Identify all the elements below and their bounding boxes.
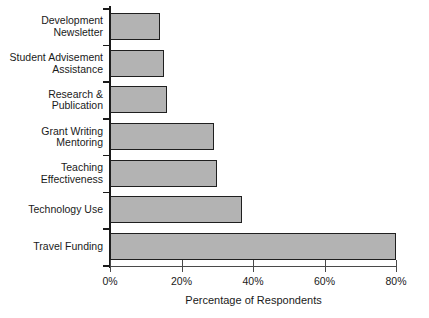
x-axis-tick-label: 80%: [385, 275, 406, 287]
category-label: Travel Funding: [33, 241, 103, 253]
x-axis-tick: [253, 260, 254, 272]
category-axis: Development NewsletterStudent Advisement…: [0, 8, 107, 265]
x-axis-tick-label: 0%: [102, 275, 117, 287]
category-label: Technology Use: [28, 204, 103, 216]
y-axis-tick: [103, 228, 110, 230]
bar: [110, 86, 167, 113]
y-axis-tick: [103, 45, 110, 47]
y-axis-tick: [103, 8, 110, 10]
bar: [110, 13, 160, 40]
x-axis-tick: [182, 260, 183, 272]
y-axis-tick: [103, 192, 110, 194]
x-axis-tick-label: 20%: [171, 275, 192, 287]
bar-chart: Development NewsletterStudent Advisement…: [0, 0, 429, 318]
bar: [110, 160, 217, 187]
x-axis-tick-label: 40%: [242, 275, 263, 287]
y-axis-tick: [103, 81, 110, 83]
category-label: Research & Publication: [48, 88, 103, 111]
x-axis-tick: [325, 260, 326, 272]
y-axis-tick: [103, 265, 110, 267]
bar: [110, 233, 396, 260]
category-label: Student Advisement Assistance: [10, 52, 103, 75]
y-axis-tick: [103, 155, 110, 157]
y-axis-tick: [103, 118, 110, 120]
plot-area: [110, 8, 396, 265]
x-axis-tick-label: 60%: [314, 275, 335, 287]
category-label: Teaching Effectiveness: [41, 162, 103, 185]
category-label: Development Newsletter: [41, 15, 103, 38]
bar: [110, 196, 242, 223]
x-axis-tick: [110, 260, 111, 272]
category-label: Grant Writing Mentoring: [41, 125, 103, 148]
x-axis-title: Percentage of Respondents: [110, 294, 397, 306]
x-axis-tick: [396, 260, 397, 272]
bar: [110, 50, 164, 77]
bar: [110, 123, 214, 150]
